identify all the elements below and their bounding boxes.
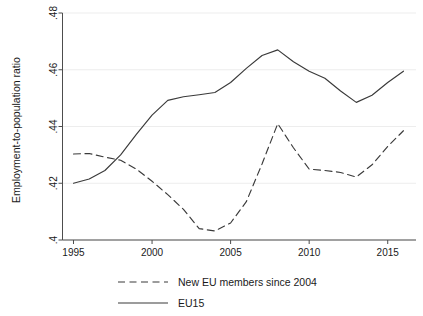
chart-background (0, 0, 423, 316)
employment-ratio-line-chart: .4.42.44.46.48 19952000200520102015 Empl… (0, 0, 423, 316)
x-tick-label: 2000 (141, 247, 164, 258)
legend-label-new-eu-members: New EU members since 2004 (178, 276, 317, 288)
y-tick-label: .48 (48, 6, 59, 20)
x-tick-label: 2010 (298, 247, 321, 258)
y-tick-label: .4 (48, 235, 59, 244)
y-axis-title: Employment-to-population ratio (10, 57, 22, 203)
legend-label-eu15: EU15 (178, 297, 204, 309)
x-tick-label: 2005 (219, 247, 242, 258)
x-tick-label: 1995 (62, 247, 85, 258)
x-tick-label: 2015 (377, 247, 400, 258)
y-tick-label: .42 (48, 176, 59, 190)
y-tick-label: .46 (48, 62, 59, 76)
y-tick-label: .44 (48, 119, 59, 133)
